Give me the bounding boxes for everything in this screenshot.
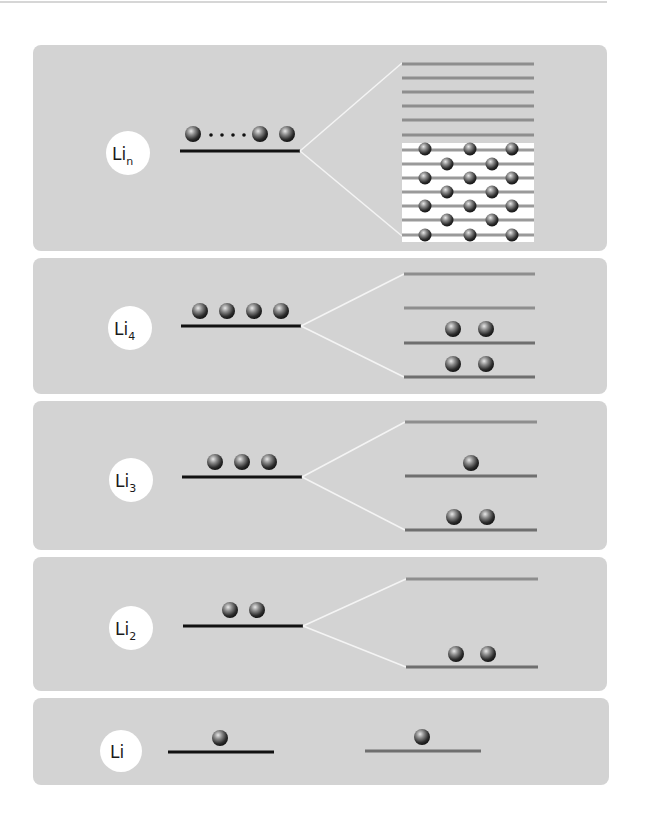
label-main: Li xyxy=(110,742,124,762)
electron-icon xyxy=(279,126,295,142)
label-main: Li xyxy=(112,144,126,164)
label-badge: Li4 xyxy=(108,306,152,350)
ellipsis-dot xyxy=(242,133,246,137)
panel-li-3: Li3 xyxy=(33,401,607,550)
ellipsis-dot xyxy=(231,133,235,137)
panel-li-4: Li4 xyxy=(33,258,607,394)
electron-icon xyxy=(185,126,201,142)
ellipsis-dot xyxy=(209,133,213,137)
electron-icon xyxy=(252,126,268,142)
panel-li-1: Li xyxy=(33,698,609,785)
panel-li-2: Li2 xyxy=(33,557,607,691)
label-subscript: 2 xyxy=(129,630,136,643)
label-main: Li xyxy=(115,619,129,639)
electrons xyxy=(207,454,277,470)
label-badge: Li2 xyxy=(109,606,153,650)
svg-text:Li: Li xyxy=(110,742,124,762)
label-subscript: 3 xyxy=(129,482,136,495)
label-main: Li xyxy=(115,471,129,491)
panel-li-n: Lin xyxy=(33,45,607,251)
label-subscript: 4 xyxy=(128,330,135,343)
electron-icon xyxy=(212,730,228,746)
label-subscript: n xyxy=(126,155,133,168)
label-badge: Lin xyxy=(106,131,150,175)
label-badge: Li3 xyxy=(109,458,153,502)
electron-icon xyxy=(414,729,430,745)
lithium-energy-level-diagram: Lin xyxy=(0,0,650,835)
ellipsis-dot xyxy=(220,133,224,137)
label-badge: Li xyxy=(100,730,142,772)
label-main: Li xyxy=(114,319,128,339)
